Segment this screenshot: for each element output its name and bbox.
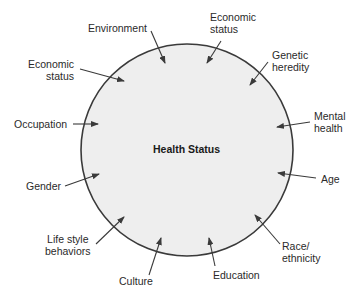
factor-life-style-behaviors: Life style behaviors bbox=[45, 233, 91, 257]
factor-economic-status-left: Economic status bbox=[28, 58, 74, 82]
factor-gender: Gender bbox=[26, 180, 61, 192]
factor-occupation: Occupation bbox=[14, 118, 67, 130]
factor-education: Education bbox=[213, 269, 260, 281]
factor-mental-health: Mental health bbox=[314, 110, 346, 134]
factor-economic-status-top: Economic status bbox=[210, 11, 256, 35]
factor-genetic-heredity: Genetic heredity bbox=[272, 49, 309, 73]
factor-culture: Culture bbox=[119, 275, 153, 287]
factor-age: Age bbox=[321, 173, 340, 185]
factor-race-ethnicity: Race/ ethnicity bbox=[282, 240, 321, 264]
center-label: Health Status bbox=[153, 143, 220, 155]
factor-environment: Environment bbox=[88, 22, 147, 34]
